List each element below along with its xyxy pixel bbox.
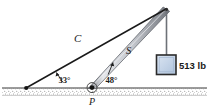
weight-block — [157, 55, 177, 75]
angle-33-annotation: 33° — [56, 73, 71, 85]
statics-figure: 33° 48° C S P 513 lb — [0, 0, 209, 108]
ground-hatching — [2, 89, 207, 96]
weight-label: 513 lb — [179, 60, 206, 71]
cable-anchor-point — [24, 86, 28, 90]
rope-attachment-point — [165, 8, 168, 11]
pin-label: P — [88, 96, 95, 107]
pin-center — [90, 85, 95, 90]
cable-label: C — [74, 32, 82, 44]
figure-canvas: 33° 48° C S P 513 lb — [0, 0, 209, 108]
ground — [2, 88, 207, 96]
angle-48-label: 48° — [106, 75, 119, 85]
strut-label: S — [126, 45, 132, 56]
angle-33-label: 33° — [59, 75, 72, 85]
